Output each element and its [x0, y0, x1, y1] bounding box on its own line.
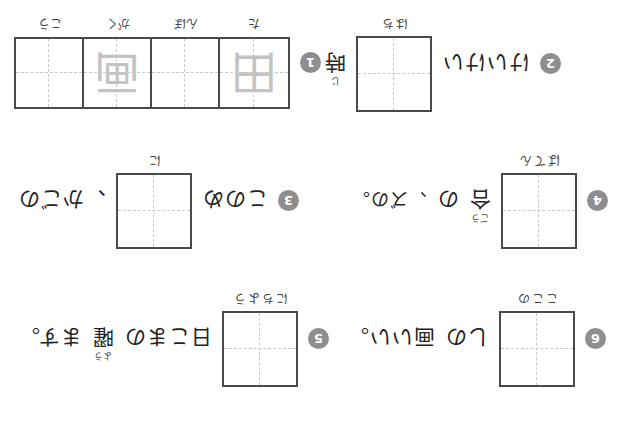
handwritten-answer-2: けいけい: [442, 49, 530, 79]
box-reading-3: に: [147, 153, 161, 170]
handwritten-answer-6: しの: [445, 324, 489, 354]
exercise-number-badge-6: 6: [585, 329, 606, 350]
cell-reading: がく: [84, 16, 152, 33]
box-reading-5: にちよう: [232, 291, 288, 308]
writing-cell[interactable]: 田: [220, 39, 288, 107]
writing-box-strip-2[interactable]: [356, 36, 432, 112]
ruby-text: じ: [331, 75, 340, 88]
writing-box-strip-4[interactable]: [501, 173, 577, 249]
handwritten-answer-4: の: [437, 186, 459, 216]
writing-box-group-4: ばてん: [501, 153, 577, 249]
cell-reading: こう: [16, 16, 84, 33]
cell-reading: んぼ: [152, 16, 220, 33]
traced-kanji: [224, 313, 296, 385]
exercise-row-6: 6 ここの しの 画いい。: [347, 291, 606, 387]
prompt-kanji-4: 合: [469, 187, 491, 211]
traced-kanji: 画: [84, 39, 150, 107]
box-reading-2: はち: [380, 16, 408, 33]
exercise-number-badge-4: 4: [587, 191, 608, 212]
traced-kanji: [358, 38, 430, 110]
exercise-number-badge-5: 5: [308, 329, 329, 350]
worksheet-sheet: 1 田 画 た んぼ がく こう: [0, 0, 636, 421]
writing-box-strip-3[interactable]: [116, 173, 192, 249]
writing-box-strip-1[interactable]: 田 画: [14, 37, 290, 109]
writing-box-strip-5[interactable]: [222, 311, 298, 387]
exercise-number-badge-3: 3: [278, 191, 299, 212]
handwritten-tail-6: 画いい。: [347, 324, 435, 354]
exercise-row-3: 3 このめ に 、かごの: [18, 153, 299, 249]
ruby-text: ごう: [471, 212, 489, 225]
handwritten-answer-3: 、かごの: [18, 186, 106, 216]
writing-cell[interactable]: [118, 175, 190, 247]
traced-kanji: 田: [220, 39, 288, 107]
writing-cell[interactable]: 画: [84, 39, 152, 107]
exercise-row-1: 1 田 画 た んぼ がく こう: [14, 16, 321, 109]
prompt-text-3: このめ: [202, 186, 268, 216]
writing-box-group-5: にちよう: [222, 291, 298, 387]
box-reading-6: ここの: [516, 291, 558, 308]
handwritten-answer-5: 日こまの: [124, 324, 212, 354]
writing-cell[interactable]: [16, 39, 84, 107]
traced-kanji: [16, 39, 82, 107]
reading-strip-1: た んぼ がく こう: [16, 16, 288, 33]
writing-cell[interactable]: [503, 175, 575, 247]
writing-cell[interactable]: [501, 313, 573, 385]
traced-kanji: [152, 39, 218, 107]
kanji-with-ruby-2: じ 時: [324, 49, 346, 79]
exercise-row-4: 4 ばてん ごう 合 の 、ズの。: [351, 153, 608, 249]
exercise-row-2: 2 けいけい はち じ 時: [324, 16, 561, 112]
exercise-row-5: 5 にちよう 日こまの よう 曜 ます。: [18, 291, 329, 387]
writing-cell[interactable]: [358, 38, 430, 110]
writing-box-strip-6[interactable]: [499, 311, 575, 387]
writing-box-group-2: はち: [356, 16, 432, 112]
exercise-number-badge-1: 1: [300, 52, 321, 73]
traced-kanji: [501, 313, 573, 385]
ruby-text: よう: [94, 350, 112, 363]
exercise-number-badge-2: 2: [540, 54, 561, 75]
cell-reading: た: [220, 16, 288, 33]
writing-cell[interactable]: [152, 39, 220, 107]
writing-box-group-1: 田 画 た んぼ がく こう: [14, 16, 290, 109]
kanji-with-ruby-4: ごう 合: [469, 186, 491, 216]
handwritten-tail-5: ます。: [18, 324, 82, 354]
prompt-kanji-5: 曜: [92, 325, 114, 349]
handwritten-tail-4: 、ズの。: [351, 188, 427, 214]
writing-box-group-6: ここの: [499, 291, 575, 387]
writing-box-group-3: に: [116, 153, 192, 249]
box-reading-4: ばてん: [518, 153, 560, 170]
traced-kanji: [503, 175, 575, 247]
traced-kanji: [118, 175, 190, 247]
writing-cell[interactable]: [224, 313, 296, 385]
kanji-with-ruby-5: よう 曜: [92, 324, 114, 354]
prompt-kanji-2: 時: [324, 50, 346, 74]
